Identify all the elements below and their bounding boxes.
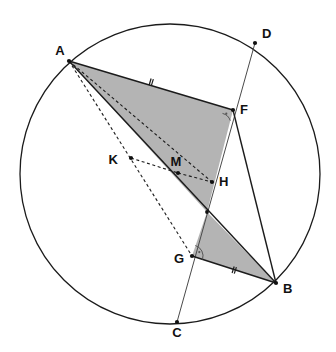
upper-shaded-triangle xyxy=(69,61,233,212)
point-label-D: D xyxy=(262,26,271,41)
point-label-H: H xyxy=(219,174,228,189)
vertex-dot-K[interactable] xyxy=(129,156,133,160)
vertex-dot-H[interactable] xyxy=(210,180,214,184)
vertex-dot-F[interactable] xyxy=(231,108,235,112)
tick-on-AF xyxy=(149,78,151,85)
point-label-B: B xyxy=(283,281,292,296)
point-label-C: C xyxy=(172,325,182,340)
right-angle-dot-G xyxy=(198,251,200,253)
vertex-dot-C[interactable] xyxy=(175,320,179,324)
tick-on-AF-b xyxy=(151,79,153,86)
geometry-canvas: A D F K M H G B C xyxy=(0,0,336,352)
vertex-dot-B[interactable] xyxy=(274,281,278,285)
point-label-A: A xyxy=(55,43,65,58)
vertex-dot-A[interactable] xyxy=(67,59,71,63)
point-label-M: M xyxy=(171,154,182,169)
vertex-dot-G[interactable] xyxy=(190,254,194,258)
point-label-F: F xyxy=(240,102,248,117)
point-label-K: K xyxy=(109,152,119,167)
geometry-figure-root: A D F K M H G B C xyxy=(0,0,336,352)
vertex-dot-M[interactable] xyxy=(176,171,180,175)
right-angle-dot-F xyxy=(225,113,227,115)
vertex-dot-crossing xyxy=(205,210,209,214)
vertex-dot-D[interactable] xyxy=(253,41,257,45)
point-label-G: G xyxy=(174,251,184,266)
